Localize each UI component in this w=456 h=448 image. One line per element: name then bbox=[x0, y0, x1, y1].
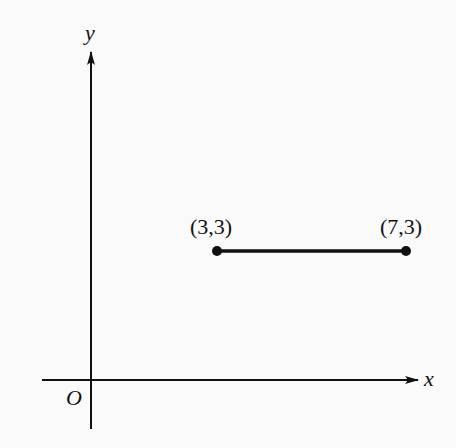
coordinate-diagram: y x O (3,3) (7,3) bbox=[0, 0, 456, 448]
x-axis-label: x bbox=[423, 366, 434, 391]
segment-end-label: (7,3) bbox=[380, 214, 422, 239]
y-axis-label: y bbox=[83, 20, 95, 45]
origin-label: O bbox=[66, 385, 82, 410]
segment-start-label: (3,3) bbox=[190, 214, 232, 239]
segment-end-point bbox=[401, 246, 411, 256]
diagram-canvas: y x O (3,3) (7,3) bbox=[0, 0, 456, 448]
segment-start-point bbox=[212, 246, 222, 256]
